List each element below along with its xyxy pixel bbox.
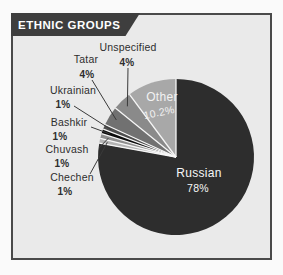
slice-label-chechen: Chechen xyxy=(50,171,93,183)
slice-pct-chuvash: 1% xyxy=(55,158,70,169)
slice-pct-russian: 78% xyxy=(187,182,209,194)
slice-pct-tatar: 4% xyxy=(80,69,95,80)
slice-pct-chechen: 1% xyxy=(58,186,73,197)
slice-label-unspecified: Unspecified xyxy=(99,41,156,53)
slice-label-other: Other xyxy=(146,90,178,104)
slice-label-ukrainian: Ukrainian xyxy=(50,84,96,96)
page-title: ETHNIC GROUPS xyxy=(18,19,120,31)
ethnic-groups-infographic: ETHNIC GROUPS Russian78%Chechen1%Chuvash… xyxy=(0,0,283,275)
slice-label-russian: Russian xyxy=(176,166,221,180)
slice-label-bashkir: Bashkir xyxy=(51,116,88,128)
slice-pct-bashkir: 1% xyxy=(53,131,68,142)
slice-label-chuvash: Chuvash xyxy=(46,143,89,155)
slice-pct-ukrainian: 1% xyxy=(56,99,71,110)
leader-line-unspecified xyxy=(127,68,128,106)
slice-label-tatar: Tatar xyxy=(74,53,99,65)
slice-pct-unspecified: 4% xyxy=(120,57,135,68)
